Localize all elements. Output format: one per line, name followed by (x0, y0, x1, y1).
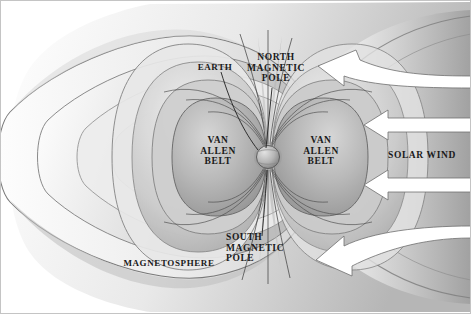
label-magnetosphere: MAGNETOSPHERE (118, 258, 220, 268)
label-solar-wind: SOLAR WIND (382, 150, 462, 161)
magnetosphere-diagram: EARTH NORTH MAGNETIC POLE SOUTH MAGNETIC… (0, 0, 471, 314)
label-van-allen-belt-left: VAN ALLEN BELT (193, 135, 243, 167)
label-south-magnetic-pole: SOUTH MAGNETIC POLE (226, 232, 288, 264)
label-van-allen-belt-right: VAN ALLEN BELT (296, 135, 346, 167)
earth-sphere (254, 144, 282, 170)
label-earth: EARTH (192, 62, 238, 72)
label-north-magnetic-pole: NORTH MAGNETIC POLE (243, 52, 309, 84)
